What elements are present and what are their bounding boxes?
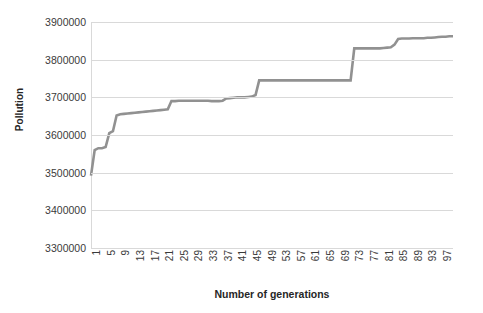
y-axis-title: Pollution — [14, 65, 25, 155]
x-tick-label: 17 — [150, 250, 161, 261]
x-tick-label: 65 — [325, 250, 336, 261]
x-tick-label: 81 — [384, 250, 395, 261]
x-tick-label: 21 — [164, 250, 175, 261]
x-tick-label: 61 — [310, 250, 321, 261]
y-tick-label: 3600000 — [45, 129, 86, 141]
gridline — [91, 210, 453, 211]
x-axis-title: Number of generations — [91, 288, 453, 300]
x-tick-label: 57 — [296, 250, 307, 261]
gridline — [91, 135, 453, 136]
gridline — [91, 60, 453, 61]
y-tick-label: 3900000 — [45, 16, 86, 28]
y-tick-label: 3300000 — [45, 242, 86, 254]
x-tick-label: 1 — [91, 250, 102, 256]
x-tick-label: 9 — [120, 250, 131, 256]
x-tick-label: 49 — [267, 250, 278, 261]
pollution-line-chart: Pollution 390000038000003700000360000035… — [0, 0, 483, 313]
x-tick-label: 41 — [237, 250, 248, 261]
x-tick-label: 77 — [369, 250, 380, 261]
plot-area — [91, 22, 453, 248]
x-tick-label: 45 — [252, 250, 263, 261]
y-axis-tick-labels: 3900000380000037000003600000350000034000… — [24, 0, 86, 313]
gridline — [91, 173, 453, 174]
y-tick-label: 3500000 — [45, 167, 86, 179]
x-tick-label: 85 — [398, 250, 409, 261]
x-tick-label: 53 — [281, 250, 292, 261]
x-tick-label: 5 — [106, 250, 117, 256]
x-tick-label: 13 — [135, 250, 146, 261]
y-tick-label: 3700000 — [45, 91, 86, 103]
y-tick-label: 3400000 — [45, 204, 86, 216]
x-axis-tick-labels: 1591317212529333741454953576165697377818… — [91, 250, 453, 290]
y-tick-label: 3800000 — [45, 54, 86, 66]
x-tick-label: 25 — [179, 250, 190, 261]
x-tick-label: 69 — [340, 250, 351, 261]
x-tick-label: 73 — [354, 250, 365, 261]
x-tick-label: 37 — [223, 250, 234, 261]
gridline — [91, 248, 453, 249]
x-tick-label: 93 — [427, 250, 438, 261]
gridline — [91, 97, 453, 98]
x-tick-label: 33 — [208, 250, 219, 261]
x-tick-label: 89 — [413, 250, 424, 261]
gridline — [91, 22, 453, 23]
x-tick-label: 29 — [193, 250, 204, 261]
x-tick-label: 97 — [442, 250, 453, 261]
